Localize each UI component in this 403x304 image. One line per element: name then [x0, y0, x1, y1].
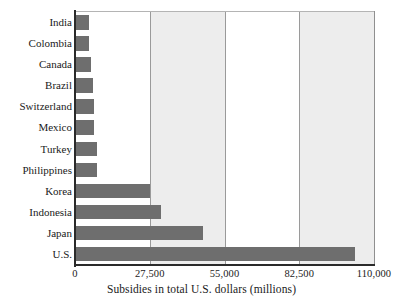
- bar: [76, 36, 89, 51]
- category-label: Korea: [0, 185, 72, 197]
- bar-row: [76, 75, 374, 96]
- bar: [76, 163, 97, 178]
- bar-row: [76, 33, 374, 54]
- category-label: Indonesia: [0, 206, 72, 218]
- x-tick-label: 0: [72, 268, 77, 279]
- x-axis-title: Subsidies in total U.S. dollars (million…: [0, 283, 403, 295]
- bar: [76, 99, 94, 114]
- bar-row: [76, 54, 374, 75]
- bar-row: [76, 160, 374, 181]
- bar-row: [76, 202, 374, 223]
- x-tick-label: 82,500: [285, 268, 314, 279]
- bar-row: [76, 181, 374, 202]
- bar: [76, 120, 94, 135]
- bar-row: [76, 244, 374, 265]
- bar: [76, 15, 89, 30]
- x-axis-line: [74, 264, 375, 266]
- bar: [76, 57, 91, 72]
- bar: [76, 184, 150, 199]
- category-label: Switzerland: [0, 100, 72, 112]
- x-tick-label: 110,000: [357, 268, 391, 279]
- plot-frame-right: [374, 11, 375, 265]
- bar: [76, 226, 203, 241]
- bar: [76, 247, 355, 262]
- bar: [76, 205, 161, 220]
- bar-row: [76, 117, 374, 138]
- bar-row: [76, 12, 374, 33]
- bar-row: [76, 139, 374, 160]
- x-tick-label: 27,500: [135, 268, 164, 279]
- y-axis-line: [74, 10, 76, 267]
- bar-row: [76, 96, 374, 117]
- bars-layer: [76, 12, 374, 265]
- bar: [76, 78, 93, 93]
- category-label: Canada: [0, 58, 72, 70]
- category-label: India: [0, 16, 72, 28]
- category-label: Japan: [0, 227, 72, 239]
- category-label: U.S.: [0, 248, 72, 260]
- bar-chart: IndiaColombiaCanadaBrazilSwitzerlandMexi…: [0, 0, 403, 304]
- category-label: Philippines: [0, 164, 72, 176]
- category-label: Brazil: [0, 79, 72, 91]
- category-label: Colombia: [0, 37, 72, 49]
- bar-row: [76, 223, 374, 244]
- category-label: Mexico: [0, 121, 72, 133]
- category-axis-labels: IndiaColombiaCanadaBrazilSwitzerlandMexi…: [0, 12, 72, 265]
- category-label: Turkey: [0, 143, 72, 155]
- bar: [76, 142, 97, 157]
- x-tick-label: 55,000: [210, 268, 239, 279]
